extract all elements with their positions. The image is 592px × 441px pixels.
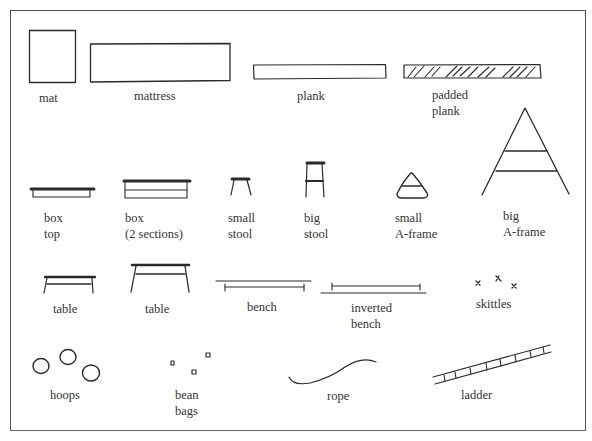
big-stool-icon xyxy=(306,163,324,197)
mattress-icon xyxy=(91,44,231,83)
table-small-icon xyxy=(44,277,95,293)
label-plank: plank xyxy=(297,88,325,104)
small-a-frame-icon xyxy=(397,173,428,198)
bean-bags-icon xyxy=(171,353,210,374)
label-big-a-frame: bigA-frame xyxy=(503,208,545,240)
label-mat: mat xyxy=(39,90,58,106)
small-stool-icon xyxy=(231,179,251,195)
label-inverted-bench: invertedbench xyxy=(351,300,392,332)
label-ladder: ladder xyxy=(461,387,492,403)
box-top-icon xyxy=(31,189,94,197)
label-table-small: table xyxy=(53,301,77,317)
skittles-icon xyxy=(476,276,516,288)
hoops-icon xyxy=(33,350,100,382)
label-bench: bench xyxy=(247,299,277,315)
rope-icon xyxy=(289,360,376,384)
label-box-two-sections: box(2 sections) xyxy=(125,210,183,242)
bench-icon xyxy=(216,281,311,291)
inverted-bench-icon xyxy=(321,283,426,293)
label-bean-bags: beanbags xyxy=(175,387,199,419)
padded-plank-icon xyxy=(404,65,541,79)
big-a-frame-icon xyxy=(482,108,569,195)
label-skittles: skittles xyxy=(476,296,511,312)
box-two-sections-icon xyxy=(124,181,190,198)
label-mattress: mattress xyxy=(134,88,176,104)
label-padded-plank: paddedplank xyxy=(432,87,468,119)
label-hoops: hoops xyxy=(50,387,80,403)
label-box-top: boxtop xyxy=(44,210,63,242)
label-small-a-frame: smallA-frame xyxy=(395,210,437,242)
label-big-stool: bigstool xyxy=(304,210,328,242)
label-rope: rope xyxy=(327,388,349,404)
label-table-big: table xyxy=(145,301,169,317)
label-small-stool: smallstool xyxy=(228,210,255,242)
plank-icon xyxy=(254,65,387,80)
ladder-icon xyxy=(433,345,551,384)
mat-icon xyxy=(30,31,76,83)
table-big-icon xyxy=(131,265,189,292)
